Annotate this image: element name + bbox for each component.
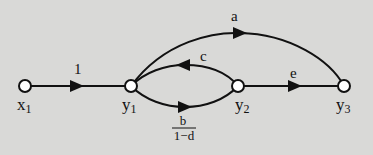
- arrow-right-icon: [70, 80, 84, 92]
- edge-gain-label: a: [231, 8, 238, 24]
- edge-gain-label: e: [290, 65, 297, 81]
- node-label: y2: [235, 95, 250, 116]
- arrow-right-icon: [178, 101, 192, 113]
- node-x1: x1: [17, 80, 32, 116]
- edge-gain-label: 1: [74, 61, 82, 77]
- signal-flow-graph: 1 a c b 1−d e x1 y1 y2 y3: [0, 0, 373, 155]
- node-label: y1: [122, 95, 137, 116]
- edge-gain-numerator: b: [180, 113, 187, 128]
- node-circle-icon: [125, 80, 137, 92]
- node-y1: y1: [122, 80, 137, 116]
- node-label: x1: [17, 95, 32, 116]
- edge-y2-y3: e: [238, 65, 344, 92]
- edge-gain-denominator: 1−d: [174, 128, 195, 143]
- arrow-right-icon: [233, 27, 247, 39]
- edge-x1-y1: 1: [25, 61, 131, 92]
- edge-gain-label: c: [200, 48, 207, 64]
- edge-y1-y3: a: [131, 8, 344, 86]
- node-circle-icon: [232, 80, 244, 92]
- arrow-right-icon: [288, 80, 302, 92]
- node-label: y3: [336, 95, 351, 116]
- edge-y1-y2: b 1−d: [131, 86, 238, 143]
- node-circle-icon: [338, 80, 350, 92]
- arrow-left-icon: [176, 59, 190, 71]
- node-circle-icon: [19, 80, 31, 92]
- node-y3: y3: [336, 80, 351, 116]
